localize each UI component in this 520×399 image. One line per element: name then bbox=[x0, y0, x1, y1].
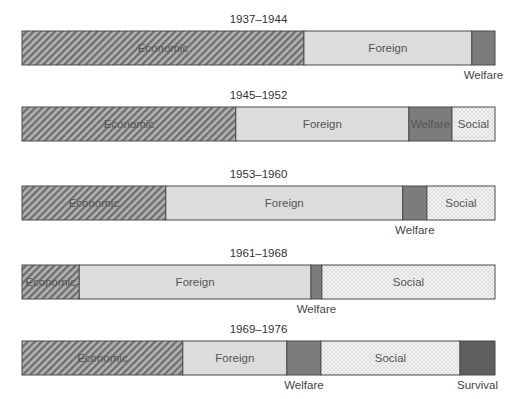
segment-label-economic: Economic bbox=[25, 276, 76, 288]
period-title: 1945–1952 bbox=[230, 89, 288, 101]
segment-label-social: Social bbox=[458, 118, 489, 130]
segment-label-social: Social bbox=[375, 352, 406, 364]
segment-label-welfare: Welfare bbox=[284, 379, 323, 391]
bars-layer: 1937–1944EconomicForeignWelfare1945–1952… bbox=[22, 13, 503, 391]
bar-segment-welfare bbox=[311, 265, 322, 299]
bar-group-1937-1944: 1937–1944EconomicForeignWelfare bbox=[22, 13, 503, 81]
segment-label-economic: Economic bbox=[138, 42, 189, 54]
bar-segment-survival bbox=[460, 341, 495, 375]
segment-label-foreign: Foreign bbox=[176, 276, 215, 288]
segment-label-welfare: Welfare bbox=[411, 118, 450, 130]
bar-segment-welfare bbox=[403, 186, 427, 220]
bar-group-1961-1968: 1961–1968EconomicForeignWelfareSocial bbox=[22, 247, 495, 315]
segment-label-social: Social bbox=[393, 276, 424, 288]
segment-label-welfare: Welfare bbox=[297, 303, 336, 315]
bar-segment-welfare bbox=[287, 341, 321, 375]
segment-label-foreign: Foreign bbox=[303, 118, 342, 130]
segment-label-welfare: Welfare bbox=[395, 224, 434, 236]
bar-group-1953-1960: 1953–1960EconomicForeignWelfareSocial bbox=[22, 168, 495, 236]
bar-group-1969-1976: 1969–1976EconomicForeignWelfareSocialSur… bbox=[22, 323, 498, 391]
segment-label-economic: Economic bbox=[77, 352, 128, 364]
segment-label-economic: Economic bbox=[104, 118, 155, 130]
bar-group-1945-1952: 1945–1952EconomicForeignWelfareSocial bbox=[22, 89, 495, 141]
period-title: 1937–1944 bbox=[230, 13, 288, 25]
bar-segment-welfare bbox=[472, 31, 495, 65]
segment-label-social: Social bbox=[445, 197, 476, 209]
segment-label-economic: Economic bbox=[69, 197, 120, 209]
period-title: 1969–1976 bbox=[230, 323, 288, 335]
segment-label-foreign: Foreign bbox=[215, 352, 254, 364]
segment-label-survival: Survival bbox=[457, 379, 498, 391]
period-title: 1961–1968 bbox=[230, 247, 288, 259]
period-title: 1953–1960 bbox=[230, 168, 288, 180]
segment-label-welfare: Welfare bbox=[464, 69, 503, 81]
segment-label-foreign: Foreign bbox=[368, 42, 407, 54]
stacked-bar-chart: 1937–1944EconomicForeignWelfare1945–1952… bbox=[0, 0, 520, 399]
segment-label-foreign: Foreign bbox=[265, 197, 304, 209]
